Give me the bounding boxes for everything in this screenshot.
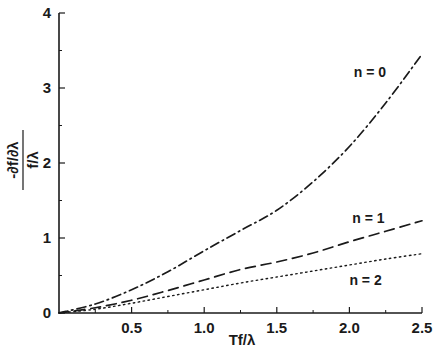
series-line-n1 bbox=[59, 221, 422, 313]
y-axis-title: -∂f/∂λf/λ bbox=[4, 130, 41, 190]
series-label-n2: n = 2 bbox=[349, 272, 382, 288]
y-tick-label: 4 bbox=[43, 4, 52, 21]
y-tick-label: 2 bbox=[43, 154, 51, 171]
x-axis-title: Tf/λ bbox=[229, 331, 256, 348]
axes: 012340.51.01.52.02.5Tf/λ-∂f/∂λf/λ bbox=[4, 4, 432, 348]
x-tick-label: 1.0 bbox=[194, 319, 215, 336]
x-tick-label: 2.0 bbox=[339, 319, 360, 336]
y-axis-title-numerator: -∂f/∂λ bbox=[4, 141, 21, 179]
x-tick-label: 2.5 bbox=[412, 319, 433, 336]
y-tick-label: 3 bbox=[43, 79, 51, 96]
x-tick-label: 0.5 bbox=[121, 319, 142, 336]
x-tick-label: 1.5 bbox=[266, 319, 287, 336]
y-tick-label: 0 bbox=[43, 304, 51, 321]
chart-plot: 012340.51.01.52.02.5Tf/λ-∂f/∂λf/λ n = 0n… bbox=[0, 0, 435, 353]
labels-group: n = 0n = 1n = 2 bbox=[349, 64, 386, 288]
series-label-n1: n = 1 bbox=[352, 210, 385, 226]
y-tick-label: 1 bbox=[43, 229, 51, 246]
y-axis-title-denominator: f/λ bbox=[24, 151, 41, 169]
series-label-n0: n = 0 bbox=[354, 64, 387, 80]
